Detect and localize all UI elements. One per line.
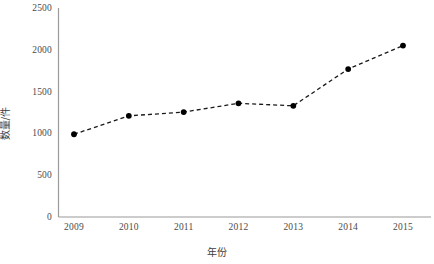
y-axis-title: 数量/件	[0, 107, 12, 140]
y-axis-tick-label: 2000	[0, 45, 52, 55]
line-chart: 05001000150020002500 2009201020112012201…	[0, 0, 434, 264]
data-point-marker	[181, 109, 187, 115]
y-axis-tick-label: 500	[0, 170, 52, 180]
data-point-markers	[71, 43, 406, 137]
data-point-marker	[345, 66, 351, 72]
x-axis-tick-label: 2010	[119, 222, 139, 232]
x-axis-tick-label: 2015	[393, 222, 413, 232]
x-axis-tick-label: 2009	[64, 222, 84, 232]
data-point-marker	[236, 100, 242, 106]
data-point-marker	[290, 103, 296, 109]
x-axis-tick-label: 2013	[283, 222, 303, 232]
data-point-marker	[126, 113, 132, 119]
data-point-marker	[400, 43, 406, 49]
x-axis-tick-label: 2014	[338, 222, 358, 232]
y-axis-tick-label: 2500	[0, 3, 52, 13]
y-axis-tick-label: 0	[0, 212, 52, 222]
x-axis-title: 年份	[0, 244, 434, 259]
y-axis-tick-label: 1500	[0, 87, 52, 97]
data-series-line	[74, 46, 403, 135]
data-point-marker	[71, 131, 77, 137]
x-axis-tick-label: 2012	[229, 222, 249, 232]
x-axis-tick-label: 2011	[174, 222, 193, 232]
